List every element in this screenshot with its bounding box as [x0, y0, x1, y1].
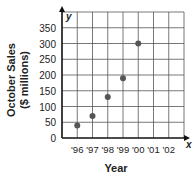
data-point [135, 41, 141, 47]
grid-lines [62, 12, 184, 138]
y-tick-label: 200 [39, 70, 56, 81]
y-tick-label: 50 [45, 117, 57, 128]
x-tick-label: '97 [86, 144, 98, 155]
y-tick-label: 350 [39, 23, 56, 34]
x-axis-title: Year [104, 162, 128, 174]
x-tick-label: '98 [102, 144, 114, 155]
y-tick-label: 150 [39, 86, 56, 97]
y-tick-label: 100 [39, 102, 56, 113]
y-axis-letter: y [65, 11, 72, 22]
scatter-chart: 050100150200250300350 '96'97'98'99'00'01… [0, 0, 194, 176]
y-tick-label: 250 [39, 54, 56, 65]
data-point [105, 94, 111, 100]
data-point [90, 113, 96, 119]
y-axis-title-line1: October Sales [5, 43, 17, 117]
y-axis-title: October Sales ($ millions) [5, 43, 30, 117]
y-axis-title-line2: ($ millions) [18, 51, 30, 109]
x-axis-letter: x [185, 139, 192, 150]
axes [59, 6, 190, 141]
y-tick-labels: 050100150200250300350 [39, 23, 56, 144]
y-axis-arrow-icon [59, 6, 65, 12]
x-tick-labels: '96'97'98'99'00'01'02 [71, 144, 175, 155]
x-tick-label: '01 [147, 144, 159, 155]
y-tick-label: 0 [50, 133, 56, 144]
chart-canvas: 050100150200250300350 '96'97'98'99'00'01… [0, 0, 194, 176]
x-tick-label: '96 [71, 144, 83, 155]
x-tick-label: '02 [163, 144, 175, 155]
data-point [120, 75, 126, 81]
data-point [74, 122, 80, 128]
y-tick-label: 300 [39, 39, 56, 50]
x-tick-label: '00 [132, 144, 144, 155]
x-tick-label: '99 [117, 144, 129, 155]
